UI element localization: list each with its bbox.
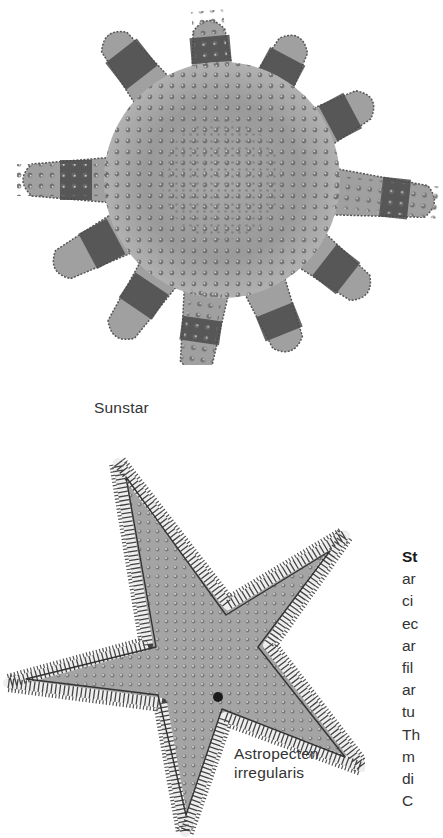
astropecten-caption: Astropecten irregularis (234, 744, 319, 782)
text-line: m (402, 746, 443, 768)
sunstar-illustration (10, 0, 440, 365)
text-line: di (402, 768, 443, 790)
astropecten-caption-species: irregularis (234, 763, 319, 782)
text-line: tu (402, 701, 443, 723)
sunstar-caption: Sunstar (94, 398, 149, 417)
text-line: Th (402, 724, 443, 746)
astropecten-caption-genus: Astropecten (234, 744, 319, 763)
text-line: ar (402, 568, 443, 590)
section-heading-fragment: St (402, 546, 443, 568)
body-text-column: St ar ci ec ar fil ar tu Th m di C (402, 546, 443, 812)
text-line: ec (402, 613, 443, 635)
text-line: ci (402, 590, 443, 612)
text-line: ar (402, 635, 443, 657)
text-line: C (402, 790, 443, 812)
text-line: ar (402, 679, 443, 701)
text-line: fil (402, 657, 443, 679)
